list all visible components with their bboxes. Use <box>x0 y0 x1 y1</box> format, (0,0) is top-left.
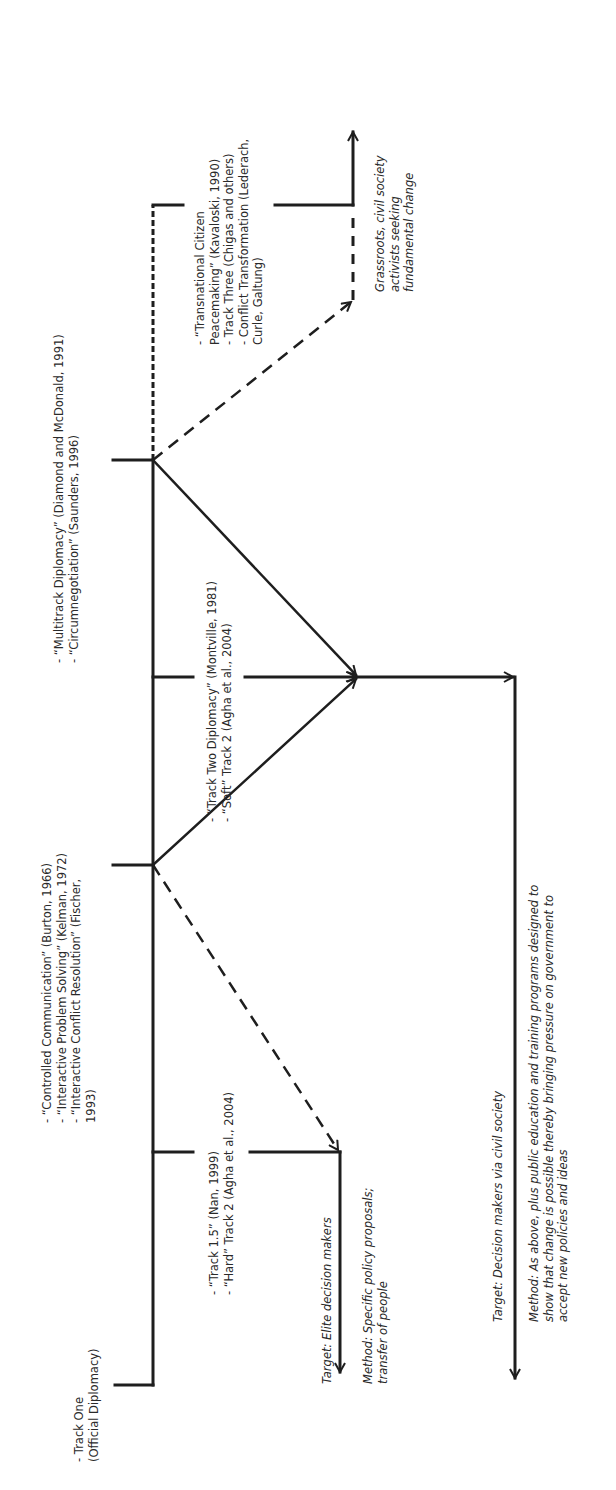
text-line: accept new policies and ideas <box>556 885 571 1322</box>
text-line: - “Multitrack Diplomacy” (Diamond and Mc… <box>52 334 67 663</box>
track-two-label: - “Track Two Diplomacy” (Montville, 1981… <box>205 581 234 822</box>
text-line: - “Track Two Diplomacy” (Montville, 1981… <box>205 581 220 822</box>
text-line: Grassroots, civil society <box>373 155 388 292</box>
elite-method-label: Method: Specific policy proposals; trans… <box>361 1188 390 1384</box>
text-line: - “Controlled Communication” (Burton, 19… <box>40 853 55 1123</box>
text-line: - “Hard” Track 2 (Agha et al., 2004) <box>222 1092 237 1295</box>
text-line: - “Circumnegotiation” (Saunders, 1996) <box>67 334 82 663</box>
text-line: Target: Decision makers via civil societ… <box>491 1091 506 1322</box>
grassroots-label: Grassroots, civil society activists seek… <box>373 155 417 292</box>
text-line: - “Interactive Conflict Resolution” (Fis… <box>69 853 84 1123</box>
text-line: Target: Elite decision makers <box>320 1217 335 1384</box>
text-line: - Track One <box>72 1348 87 1462</box>
text-line: fundamental change <box>402 155 417 292</box>
text-line: - “Transnational Citizen <box>193 139 208 345</box>
text-line: - “Interactive Problem Solving” (Kelman,… <box>55 853 70 1123</box>
diagram-lines <box>0 0 616 1490</box>
civil-method-label: Method: As above, plus public education … <box>527 885 571 1322</box>
text-line: activists seeking <box>388 155 403 292</box>
text-line: - “Track 1.5” (Nan, 1999) <box>207 1092 222 1295</box>
problem-solving-label: - “Controlled Communication” (Burton, 19… <box>40 853 98 1123</box>
text-line: transfer of people <box>376 1188 391 1384</box>
track-one-label: - Track One (Official Diplomacy) <box>72 1348 101 1462</box>
text-line: (Official Diplomacy) <box>87 1348 102 1462</box>
text-line: Curle, Galtung) <box>251 139 266 345</box>
text-line: 1993) <box>84 853 99 1123</box>
text-line: - Conflict Transformation (Lederach, <box>237 139 252 345</box>
text-line: Method: As above, plus public education … <box>527 885 542 1322</box>
multitrack-label: - “Multitrack Diplomacy” (Diamond and Mc… <box>52 334 81 663</box>
text-line: - Track Three (Chigas and others) <box>222 139 237 345</box>
text-line: show that change is possible thereby bri… <box>542 885 557 1322</box>
track-three-label: - “Transnational Citizen Peacemaking” (K… <box>193 139 266 345</box>
text-line: - “Soft” Track 2 (Agha et al., 2004) <box>220 581 235 822</box>
track-one-five-label: - “Track 1.5” (Nan, 1999) - “Hard” Track… <box>207 1092 236 1295</box>
elite-target-label: Target: Elite decision makers <box>320 1217 335 1384</box>
text-line: Method: Specific policy proposals; <box>361 1188 376 1384</box>
civil-target-label: Target: Decision makers via civil societ… <box>491 1091 506 1322</box>
text-line: Peacemaking” (Kavaloski, 1990) <box>208 139 223 345</box>
